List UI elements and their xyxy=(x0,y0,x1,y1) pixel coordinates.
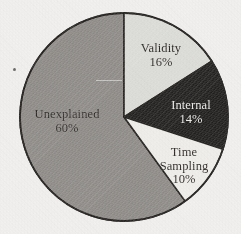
slice-label-unexplained-percent: 60% xyxy=(18,122,116,136)
slice-label-internal: Internal 14% xyxy=(150,99,232,126)
scan-artifact-streak xyxy=(96,80,122,81)
slice-label-unexplained: Unexplained 60% xyxy=(18,108,116,135)
slice-label-unexplained-name: Unexplained xyxy=(18,108,116,122)
slice-label-validity: Validity 16% xyxy=(124,42,198,69)
slice-label-validity-percent: 16% xyxy=(124,56,198,70)
slice-label-time-sampling-percent: 10% xyxy=(142,173,226,187)
slice-label-internal-name: Internal xyxy=(150,99,232,113)
scan-artifact-speck xyxy=(13,68,16,71)
slice-label-internal-percent: 14% xyxy=(150,113,232,127)
slice-label-time-sampling-line1: Time xyxy=(142,146,226,160)
slice-label-validity-name: Validity xyxy=(124,42,198,56)
slice-label-time-sampling: Time Sampling 10% xyxy=(142,146,226,187)
pie-chart-figure: Validity 16% Internal 14% Time Sampling … xyxy=(0,0,241,234)
slice-label-time-sampling-line2: Sampling xyxy=(142,160,226,174)
